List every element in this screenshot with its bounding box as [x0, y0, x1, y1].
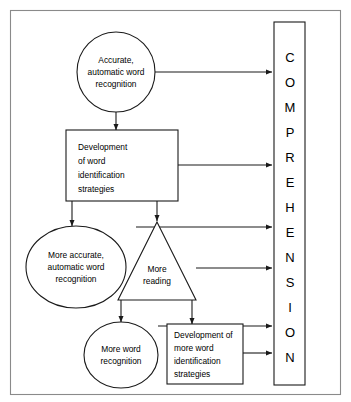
node-line: identification: [78, 170, 125, 180]
reading-flow-diagram: C O M P R E H E N S I O N: [0, 0, 351, 402]
node-line: more word: [174, 343, 214, 353]
bar-letter: O: [285, 75, 295, 90]
node-more-accurate-label: More accurate, automatic word recognitio…: [48, 250, 105, 284]
node-line: recognition: [101, 356, 142, 366]
bar-letter: E: [286, 175, 295, 190]
node-line: More accurate,: [48, 250, 104, 260]
bar-letter: H: [285, 200, 294, 215]
bar-letter: C: [285, 50, 294, 65]
node-more-reading: [118, 222, 196, 300]
bar-letter: N: [285, 250, 294, 265]
bar-letter: M: [285, 100, 296, 115]
bar-letter: I: [288, 300, 292, 315]
node-line: of word: [78, 156, 106, 166]
node-line: reading: [143, 276, 171, 286]
node-line: identification: [174, 356, 221, 366]
node-line: Development of: [174, 330, 233, 340]
node-line: recognition: [56, 274, 97, 284]
node-line: More: [147, 264, 166, 274]
node-line: strategies: [174, 369, 210, 379]
bar-letter: N: [285, 350, 294, 365]
node-more-word-recognition: [84, 322, 158, 388]
diagram-page: C O M P R E H E N S I O N: [0, 0, 351, 402]
node-line: strategies: [78, 184, 114, 194]
bar-letter: R: [285, 150, 294, 165]
node-line: automatic word: [88, 67, 145, 77]
bar-letter: P: [286, 125, 295, 140]
node-line: More word: [101, 344, 141, 354]
node-line: automatic word: [48, 262, 105, 272]
node-line: Accurate,: [98, 55, 133, 65]
bar-letter: O: [285, 325, 295, 340]
node-line: recognition: [96, 79, 137, 89]
bar-letter: S: [286, 275, 295, 290]
bar-letter: E: [286, 225, 295, 240]
node-line: Development: [78, 142, 128, 152]
